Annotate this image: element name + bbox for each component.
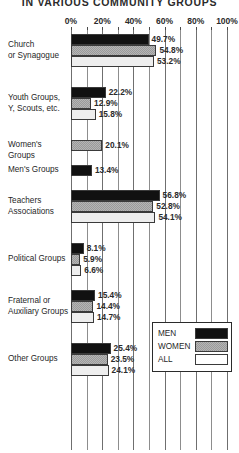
gridline <box>227 30 228 450</box>
bar-value-label: 13.4% <box>95 165 119 176</box>
axis-tick-label: 60% <box>156 16 173 26</box>
gridline <box>149 30 150 450</box>
bar-all <box>71 56 154 67</box>
category-label-line: Associations <box>8 207 54 216</box>
category-label-line: Political Groups <box>8 254 65 263</box>
bar-women <box>71 140 102 151</box>
legend-item: MEN <box>158 328 228 339</box>
bar-men <box>71 190 160 201</box>
x-axis: 0%20%40%60%80%100% <box>0 16 239 30</box>
bar-men <box>71 34 149 45</box>
category-label-line: Other Groups <box>8 354 58 363</box>
bar-men <box>71 343 111 354</box>
bar-all <box>71 212 155 223</box>
category-label-line: Y, Scouts, etc. <box>8 104 60 113</box>
gridline <box>133 30 134 450</box>
legend-label: WOMEN <box>158 341 190 352</box>
bar-men <box>71 243 84 254</box>
bar-men <box>71 165 92 176</box>
category-label: Churchor Synagogue <box>8 40 70 61</box>
category-label-line: Men's Groups <box>8 165 59 174</box>
bar-value-label: 5.9% <box>83 254 102 265</box>
category-label-line: Church <box>8 40 34 49</box>
legend-swatch-all <box>195 354 228 365</box>
bar-value-label: 22.2% <box>109 87 133 98</box>
bar-all <box>71 109 96 120</box>
legend-label: ALL <box>158 354 173 365</box>
bar-value-label: 56.8% <box>163 190 187 201</box>
category-label-line: Youth Groups, <box>8 93 60 102</box>
bar-women <box>71 301 93 312</box>
bar-women <box>71 45 156 56</box>
legend-item: ALL <box>158 354 228 365</box>
bar-value-label: 14.4% <box>96 301 120 312</box>
bar-value-label: 20.1% <box>105 140 129 151</box>
gridline <box>180 30 181 450</box>
gridline <box>165 30 166 450</box>
bar-women <box>71 354 108 365</box>
bar-women <box>71 201 153 212</box>
legend-item: WOMEN <box>158 341 228 352</box>
gridline <box>211 30 212 450</box>
bar-men <box>71 87 106 98</box>
bar-value-label: 12.9% <box>94 98 118 109</box>
bar-all <box>71 312 94 323</box>
bar-all <box>71 265 81 276</box>
bar-value-label: 15.8% <box>99 109 123 120</box>
bar-value-label: 24.1% <box>112 365 136 376</box>
legend-swatch-men <box>195 328 228 339</box>
category-label: Other Groups <box>8 354 70 365</box>
bar-women <box>71 254 80 265</box>
category-label: Women's Groups <box>8 140 70 161</box>
bar-value-label: 8.1% <box>87 243 106 254</box>
category-label: Fraternal orAuxiliary Groups <box>8 296 70 317</box>
axis-tick-label: 20% <box>94 16 111 26</box>
category-label-line: or Synagogue <box>8 51 59 60</box>
category-label-line: Auxiliary Groups <box>8 307 68 316</box>
bar-value-label: 53.2% <box>157 56 181 67</box>
category-label-line: Fraternal or <box>8 296 50 305</box>
axis-tick-label: 80% <box>187 16 204 26</box>
bar-value-label: 49.7% <box>152 34 176 45</box>
chart-title: IN VARIOUS COMMUNITY GROUPS <box>0 0 239 8</box>
plot-area: 49.7%54.8%53.2%22.2%12.9%15.8%20.1%13.4%… <box>71 30 227 450</box>
bar-value-label: 25.4% <box>114 343 138 354</box>
category-label: Men's Groups <box>8 165 70 176</box>
legend-swatch-women <box>195 341 228 352</box>
axis-tick-label: 0% <box>65 16 77 26</box>
bar-women <box>71 98 91 109</box>
bar-value-label: 6.6% <box>84 265 103 276</box>
legend: MENWOMENALL <box>152 322 232 372</box>
bar-value-label: 14.7% <box>97 312 121 323</box>
category-label: Political Groups <box>8 254 70 265</box>
bar-value-label: 15.4% <box>98 290 122 301</box>
category-label: Youth Groups,Y, Scouts, etc. <box>8 93 70 114</box>
bar-value-label: 52.8% <box>156 201 180 212</box>
bar-men <box>71 290 95 301</box>
category-label-line: Women's Groups <box>8 140 42 160</box>
bar-value-label: 54.8% <box>159 45 183 56</box>
bar-all <box>71 365 109 376</box>
legend-label: MEN <box>158 328 176 339</box>
axis-tick-label: 40% <box>125 16 142 26</box>
gridline <box>196 30 197 450</box>
bar-value-label: 23.5% <box>111 354 135 365</box>
axis-tick-label: 100% <box>216 16 238 26</box>
bar-value-label: 54.1% <box>158 212 182 223</box>
category-label-line: Teachers <box>8 196 41 205</box>
category-label: TeachersAssociations <box>8 196 70 217</box>
